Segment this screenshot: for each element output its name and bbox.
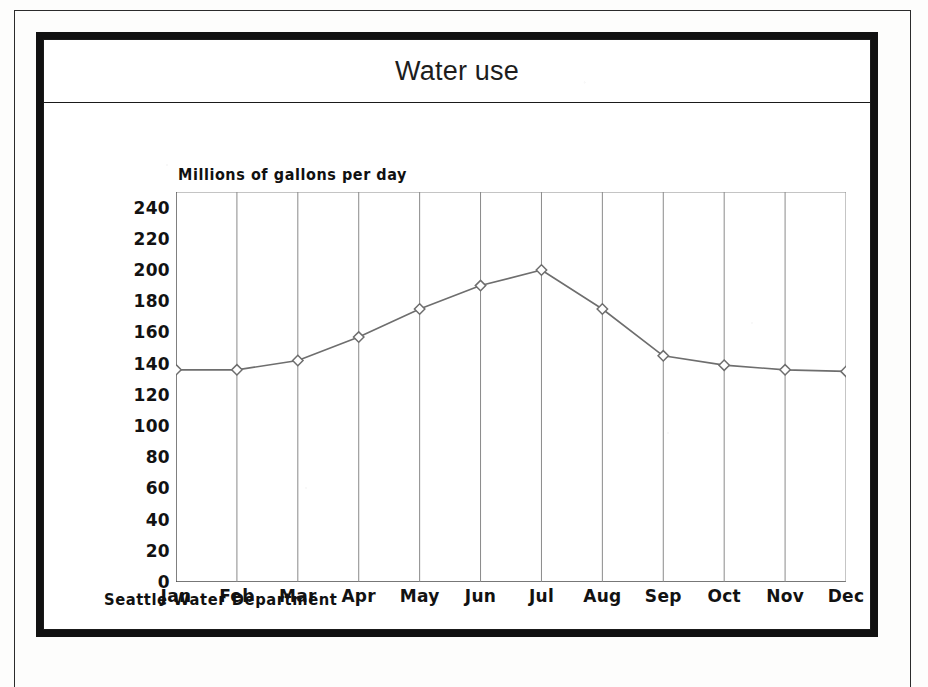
y-axis-tick-label: 220 [134, 229, 170, 249]
y-axis-tick-label: 140 [134, 354, 170, 374]
plot-area [176, 192, 846, 582]
page-title: Water use [395, 56, 519, 87]
data-point-marker [536, 265, 546, 275]
data-point-marker [354, 332, 364, 342]
x-axis-tick-label: Aug [583, 586, 621, 606]
line-chart-svg [176, 192, 846, 582]
chart-title-band: Water use [44, 40, 870, 103]
data-point-marker [232, 365, 242, 375]
x-axis-tick-label: Nov [766, 586, 804, 606]
y-axis-label: Millions of gallons per day [178, 166, 407, 184]
data-point-marker [719, 360, 729, 370]
y-axis-tick-label: 20 [146, 541, 170, 561]
y-axis-tick-label: 60 [146, 478, 170, 498]
data-point-marker [414, 304, 424, 314]
x-axis-tick-label: Dec [828, 586, 865, 606]
y-axis-tick-label: 200 [134, 260, 170, 280]
scanned-page: Water use Millions of gallons per day 24… [0, 0, 928, 687]
figure-frame-inner: Water use Millions of gallons per day 24… [43, 39, 871, 630]
data-point-marker [475, 280, 485, 290]
y-axis-tick-label: 120 [134, 385, 170, 405]
chart-body: Millions of gallons per day 240220200180… [44, 104, 870, 629]
x-axis-tick-label: Jun [465, 586, 496, 606]
data-point-marker [780, 365, 790, 375]
y-axis-tick-label: 100 [134, 416, 170, 436]
data-point-marker [293, 355, 303, 365]
chart-source-note: Seattle Water Department [104, 591, 337, 609]
x-axis-tick-label: Sep [645, 586, 682, 606]
data-point-markers [176, 265, 846, 377]
y-axis-tick-label: 80 [146, 447, 170, 467]
data-point-marker [176, 365, 181, 375]
x-axis-tick-label: May [400, 586, 440, 606]
grid-lines [176, 192, 846, 582]
y-axis-tick-label: 180 [134, 291, 170, 311]
x-axis-tick-label: Jul [529, 586, 554, 606]
y-axis-tick-label: 160 [134, 322, 170, 342]
y-axis-tick-labels: 240220200180160140120100806040200 [100, 192, 170, 582]
data-series-line [176, 270, 846, 371]
x-axis-tick-label: Apr [341, 586, 376, 606]
y-axis-tick-label: 40 [146, 510, 170, 530]
y-axis-tick-label: 240 [134, 198, 170, 218]
data-point-marker [841, 366, 846, 376]
x-axis-tick-label: Oct [707, 586, 741, 606]
figure-frame: Water use Millions of gallons per day 24… [36, 32, 878, 637]
